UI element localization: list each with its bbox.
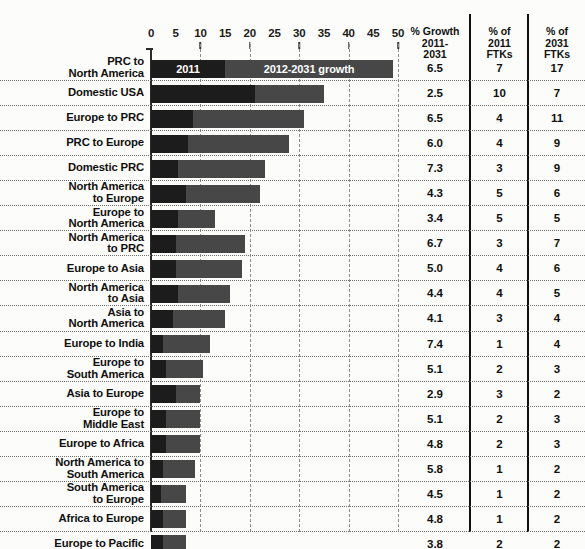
cell-pct-growth: 6.7 — [400, 231, 470, 255]
row-label: South Americato Europe — [6, 482, 144, 506]
table-row[interactable]: North Americato PRC6.737 — [0, 231, 585, 256]
cell-pct-2011-ftks: 7 — [471, 56, 528, 80]
row-label-line: Africa to Europe — [59, 513, 144, 525]
stacked-bar[interactable] — [151, 85, 324, 103]
bar-segment-growth — [161, 485, 186, 503]
chart-rows: PRC toNorth America20112012-2031 growth6… — [0, 56, 585, 549]
table-row[interactable]: Europe to India7.414 — [0, 332, 585, 357]
row-label-line: Europe to Africa — [59, 438, 144, 450]
stacked-bar[interactable] — [151, 535, 186, 549]
table-row[interactable]: Europe toNorth America3.455 — [0, 206, 585, 231]
table-row[interactable]: South Americato Europe4.512 — [0, 482, 585, 507]
row-label: Europe toNorth America — [6, 206, 144, 230]
row-label-line: North America — [69, 68, 144, 80]
cell-pct-growth: 5.0 — [400, 256, 470, 280]
table-row[interactable]: North Americato Asia4.445 — [0, 281, 585, 306]
stacked-bar[interactable]: 20112012-2031 growth — [151, 60, 393, 78]
table-row[interactable]: Domestic PRC7.339 — [0, 156, 585, 181]
table-row[interactable]: Domestic USA2.5107 — [0, 81, 585, 106]
cell-pct-2031-ftks: 11 — [529, 106, 585, 130]
table-row[interactable]: Asia toNorth America4.134 — [0, 306, 585, 331]
bar-segment-growth — [178, 210, 215, 228]
row-label: PRC to Europe — [6, 131, 144, 155]
table-row[interactable]: Africa to Europe4.812 — [0, 507, 585, 532]
bar-segment-2011 — [151, 135, 188, 153]
cell-pct-growth: 4.4 — [400, 281, 470, 305]
cell-pct-2011-ftks: 4 — [471, 256, 528, 280]
table-row[interactable]: Asia to Europe2.932 — [0, 382, 585, 407]
bar-segment-2011 — [151, 235, 176, 253]
stacked-bar[interactable] — [151, 310, 225, 328]
row-label-line: Asia to Europe — [66, 388, 144, 400]
row-label-line: North America — [69, 218, 144, 230]
cell-pct-2031-ftks: 2 — [529, 382, 585, 406]
stacked-bar[interactable] — [151, 385, 200, 403]
cell-pct-2031-ftks: 3 — [529, 407, 585, 431]
bar-segment-growth — [193, 110, 304, 128]
row-label-line: Europe to PRC — [66, 112, 144, 124]
x-tick-label-10: 10 — [194, 27, 206, 39]
stacked-bar[interactable] — [151, 260, 242, 278]
stacked-bar[interactable] — [151, 135, 289, 153]
row-label: North America toSouth America — [6, 457, 144, 481]
bar-segment-growth — [163, 535, 185, 549]
table-row[interactable]: Europe to Africa4.823 — [0, 432, 585, 457]
row-label: North Americato Europe — [6, 181, 144, 205]
bar-segment-2011 — [151, 485, 161, 503]
cell-pct-growth: 4.8 — [400, 507, 470, 531]
cell-pct-growth: 3.4 — [400, 206, 470, 230]
row-label-line: North America — [69, 318, 144, 330]
table-row[interactable]: Europe toMiddle East5.123 — [0, 407, 585, 432]
legend-label-2011: 2011 — [151, 60, 225, 78]
cell-pct-growth: 5.1 — [400, 357, 470, 381]
table-row[interactable]: PRC to Europe6.049 — [0, 131, 585, 156]
x-tick-label-45: 45 — [367, 27, 379, 39]
bar-segment-growth — [178, 160, 264, 178]
stacked-bar[interactable] — [151, 460, 195, 478]
stacked-bar[interactable] — [151, 210, 215, 228]
cell-pct-growth: 4.5 — [400, 482, 470, 506]
column-header-ftk2031-line1: % of — [529, 26, 585, 38]
cell-pct-growth: 6.0 — [400, 131, 470, 155]
stacked-bar[interactable] — [151, 335, 210, 353]
table-row[interactable]: PRC toNorth America20112012-2031 growth6… — [0, 56, 585, 81]
row-label-line: to PRC — [69, 243, 144, 255]
table-row[interactable]: North Americato Europe4.356 — [0, 181, 585, 206]
stacked-bar[interactable] — [151, 285, 230, 303]
row-label: Europe to Pacific — [6, 532, 144, 549]
row-label: North Americato PRC — [6, 231, 144, 255]
table-row[interactable]: Europe to Asia5.046 — [0, 256, 585, 281]
bar-segment-growth — [176, 260, 243, 278]
bar-segment-growth — [163, 335, 210, 353]
cell-pct-2011-ftks: 3 — [471, 156, 528, 180]
cell-pct-2031-ftks: 4 — [529, 306, 585, 330]
table-row[interactable]: Europe toSouth America5.123 — [0, 357, 585, 382]
cell-pct-2011-ftks: 3 — [471, 231, 528, 255]
cell-pct-2011-ftks: 3 — [471, 382, 528, 406]
table-row[interactable]: North America toSouth America5.812 — [0, 457, 585, 482]
cell-pct-2011-ftks: 2 — [471, 432, 528, 456]
cell-pct-2011-ftks: 4 — [471, 281, 528, 305]
cell-pct-2011-ftks: 1 — [471, 457, 528, 481]
stacked-bar[interactable] — [151, 185, 260, 203]
cell-pct-2011-ftks: 4 — [471, 131, 528, 155]
row-label: Europe toMiddle East — [6, 407, 144, 431]
stacked-bar[interactable] — [151, 360, 203, 378]
bar-segment-2011 — [151, 460, 163, 478]
cell-pct-2011-ftks: 4 — [471, 106, 528, 130]
stacked-bar[interactable] — [151, 235, 245, 253]
stacked-bar[interactable] — [151, 485, 186, 503]
stacked-bar[interactable] — [151, 160, 265, 178]
stacked-bar[interactable] — [151, 110, 304, 128]
table-row[interactable]: Europe to PRC6.5411 — [0, 106, 585, 131]
table-row[interactable]: Europe to Pacific3.822 — [0, 532, 585, 549]
stacked-bar[interactable] — [151, 435, 200, 453]
row-label-line: Europe to Pacific — [54, 538, 144, 549]
row-label-line: to Europe — [69, 193, 144, 205]
cell-pct-2031-ftks: 2 — [529, 507, 585, 531]
cell-pct-2011-ftks: 1 — [471, 507, 528, 531]
cell-pct-2011-ftks: 5 — [471, 181, 528, 205]
row-label: Asia to Europe — [6, 382, 144, 406]
stacked-bar[interactable] — [151, 510, 186, 528]
stacked-bar[interactable] — [151, 410, 200, 428]
